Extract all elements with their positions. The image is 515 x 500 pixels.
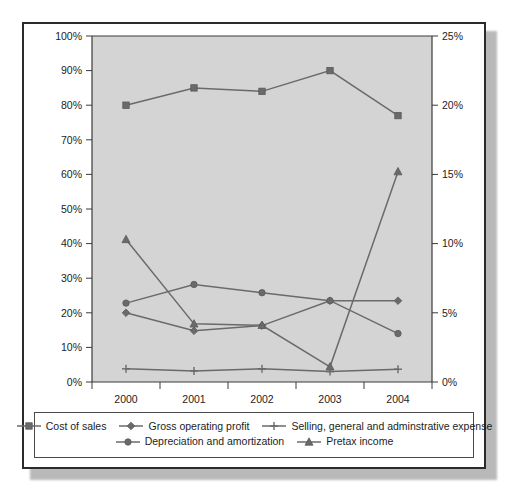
right-axis-tick-label: 20%	[442, 99, 463, 111]
x-axis-tick-label: 2003	[318, 393, 342, 405]
circle-marker-icon	[123, 300, 129, 306]
circle-marker-icon	[124, 439, 130, 445]
square-marker-icon	[26, 423, 32, 429]
legend-label: Pretax income	[326, 434, 393, 450]
left-axis-tick-label: 90%	[61, 64, 82, 76]
left-axis-tick-label: 10%	[61, 341, 82, 353]
square-marker-icon	[16, 420, 42, 432]
square-marker-icon	[191, 85, 197, 91]
left-axis-tick-label: 30%	[61, 272, 82, 284]
x-axis-tick-label: 2000	[114, 393, 138, 405]
line-chart: 0%10%20%30%40%50%60%70%80%90%100%0%5%10%…	[24, 24, 484, 467]
diamond-marker-icon	[118, 420, 144, 432]
right-axis-tick-label: 0%	[442, 376, 457, 388]
legend-label: Selling, general and adminstrative expen…	[291, 419, 492, 435]
circle-marker-icon	[191, 281, 197, 287]
plus-marker-icon	[261, 420, 287, 432]
circle-marker-icon	[327, 297, 333, 303]
x-axis-tick-label: 2002	[250, 393, 274, 405]
figure-frame: 0%10%20%30%40%50%60%70%80%90%100%0%5%10%…	[22, 22, 486, 469]
circle-marker-icon	[115, 436, 141, 448]
legend-label: Cost of sales	[46, 419, 107, 435]
legend-item-sga-expense[interactable]: Selling, general and adminstrative expen…	[261, 419, 492, 435]
legend-item-depreciation-amortization[interactable]: Depreciation and amortization	[115, 434, 285, 450]
x-axis-tick-label: 2004	[386, 393, 410, 405]
triangle-marker-icon	[296, 436, 322, 448]
legend-row-1: Cost of sales Gross operating profit Sel…	[39, 419, 469, 435]
square-marker-icon	[327, 67, 333, 73]
left-axis-tick-label: 80%	[61, 99, 82, 111]
x-axis-tick-label: 2001	[182, 393, 206, 405]
right-axis-tick-label: 25%	[442, 30, 463, 42]
diamond-marker-icon	[128, 423, 136, 431]
left-axis-tick-label: 100%	[55, 30, 82, 42]
legend-item-cost-of-sales[interactable]: Cost of sales	[16, 419, 107, 435]
left-axis-tick-label: 20%	[61, 307, 82, 319]
circle-marker-icon	[259, 290, 265, 296]
legend-row-2: Depreciation and amortization Pretax inc…	[39, 434, 469, 450]
left-axis-tick-label: 40%	[61, 237, 82, 249]
square-marker-icon	[123, 102, 129, 108]
left-axis-tick-label: 70%	[61, 134, 82, 146]
left-axis-tick-label: 0%	[67, 376, 82, 388]
left-axis-tick-label: 60%	[61, 168, 82, 180]
right-axis-tick-label: 15%	[442, 168, 463, 180]
left-axis-tick-label: 50%	[61, 203, 82, 215]
right-axis-tick-label: 5%	[442, 307, 457, 319]
legend-label: Depreciation and amortization	[145, 434, 285, 450]
right-axis-tick-label: 10%	[442, 237, 463, 249]
square-marker-icon	[395, 112, 401, 118]
plot-area-container: 0%10%20%30%40%50%60%70%80%90%100%0%5%10%…	[24, 24, 484, 467]
chart-screenshot: 0%10%20%30%40%50%60%70%80%90%100%0%5%10%…	[0, 0, 515, 500]
legend-label: Gross operating profit	[148, 419, 249, 435]
square-marker-icon	[259, 88, 265, 94]
plus-marker-icon	[270, 422, 278, 430]
legend-item-gross-operating-profit[interactable]: Gross operating profit	[118, 419, 249, 435]
chart-legend: Cost of sales Gross operating profit Sel…	[34, 412, 474, 459]
circle-marker-icon	[395, 330, 401, 336]
legend-item-pretax-income[interactable]: Pretax income	[296, 434, 393, 450]
